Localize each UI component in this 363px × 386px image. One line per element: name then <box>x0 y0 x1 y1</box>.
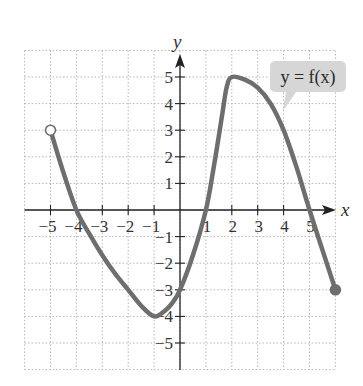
y-tick-label: 3 <box>165 121 174 140</box>
x-axis-label: x <box>340 199 350 220</box>
x-tick-label: −3 <box>90 217 108 236</box>
y-axis-label: y <box>171 31 182 52</box>
y-tick-label: 2 <box>165 148 174 167</box>
x-tick-label: −5 <box>38 217 56 236</box>
y-tick-label: −3 <box>155 281 173 300</box>
callout-label: y = f(x) <box>280 67 335 88</box>
y-tick-label: −1 <box>155 228 173 247</box>
function-graph: y = f(x) −5−4−3−2−112345−5−4−3−2−112345 … <box>0 0 363 386</box>
y-tick-label: 1 <box>165 174 174 193</box>
x-tick-label: 2 <box>229 217 238 236</box>
x-tick-label: 4 <box>280 217 289 236</box>
closed-endpoint <box>330 285 340 295</box>
open-endpoint <box>46 125 56 135</box>
y-tick-label: 5 <box>165 68 174 87</box>
y-tick-label: −2 <box>155 254 173 273</box>
x-tick-label: 3 <box>254 217 263 236</box>
y-tick-label: −5 <box>155 334 173 353</box>
function-curve <box>51 77 336 317</box>
y-tick-label: 4 <box>165 95 174 114</box>
x-tick-label: −2 <box>116 217 134 236</box>
